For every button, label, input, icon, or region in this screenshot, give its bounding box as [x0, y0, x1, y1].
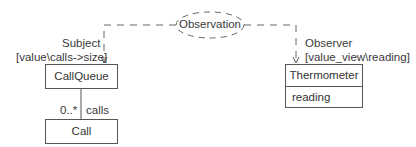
- class-call[interactable]: Call: [45, 119, 118, 144]
- observer-binding-label: [value_view\reading]: [305, 51, 410, 64]
- class-thermometer[interactable]: Thermometer reading: [285, 64, 363, 108]
- observer-role-label: Observer: [305, 37, 352, 50]
- class-name: CallQueue: [46, 65, 117, 87]
- subject-role-label: Subject: [62, 37, 100, 50]
- multiplicity-label: 0..*: [60, 104, 77, 117]
- collaboration-label: Observation: [178, 18, 242, 31]
- class-attribute: reading: [286, 86, 362, 107]
- subject-dependency-line: [104, 25, 176, 62]
- subject-binding-label: [value\calls->size]: [16, 51, 107, 64]
- association-role-label: calls: [86, 104, 109, 117]
- class-name: Thermometer: [286, 65, 362, 86]
- class-name: Call: [46, 120, 117, 142]
- class-callqueue[interactable]: CallQueue: [45, 64, 118, 89]
- observer-dependency-line: [244, 25, 296, 62]
